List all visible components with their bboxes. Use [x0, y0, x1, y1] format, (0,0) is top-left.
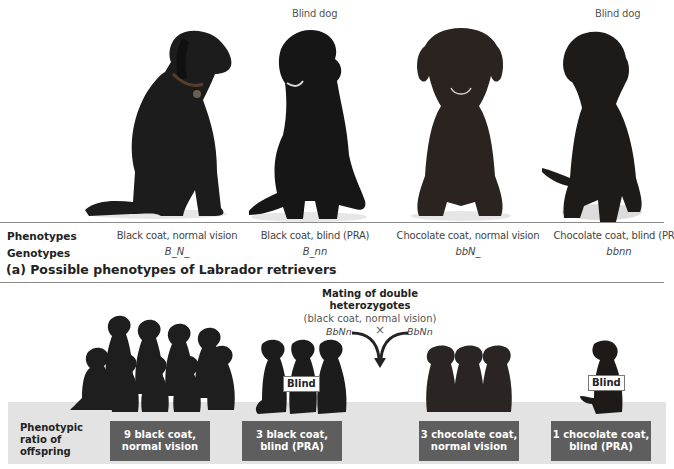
ratio-box-3-line1: 3 chocolate coat,: [421, 429, 518, 441]
blind-tag-black: Blind: [283, 376, 320, 392]
ratio-box-chocolate-normal: 3 chocolate coat, normal vision: [419, 421, 519, 461]
section-divider: [0, 282, 664, 283]
parent-right-genotype: BbNn: [407, 326, 433, 337]
phenotype-4: Chocolate coat, blind (PRA): [534, 230, 674, 241]
mating-title-line1: Mating of double: [290, 288, 450, 300]
ratio-box-2-line1: 3 black coat,: [256, 429, 328, 441]
genotype-4: bbnn: [534, 246, 674, 257]
phenotypic-ratio-label: Phenotypic ratio of offspring: [20, 422, 83, 458]
genotype-2: B_nn: [230, 246, 400, 257]
black-coat-blind-dog-image: [243, 25, 373, 223]
mating-title-line2: heterozygotes: [290, 300, 450, 312]
ratio-box-chocolate-blind: 1 chocolate coat, blind (PRA): [551, 421, 651, 461]
mating-arrow-icon: [350, 328, 410, 370]
parent-left-genotype: BbNn: [326, 326, 352, 337]
top-baseline-divider: [0, 222, 664, 223]
mating-subtitle: (black coat, normal vision): [280, 313, 460, 324]
chocolate-coat-blind-dog-image: [540, 28, 660, 226]
phenotypes-row-label: Phenotypes: [7, 230, 77, 242]
section-title-a: (a) Possible phenotypes of Labrador retr…: [6, 262, 337, 277]
ratio-box-black-blind: 3 black coat, blind (PRA): [242, 421, 342, 461]
ratio-box-4-line2: blind (PRA): [553, 441, 650, 453]
ratio-box-2-line2: blind (PRA): [256, 441, 328, 453]
genotypes-row-label: Genotypes: [7, 247, 70, 259]
ratio-box-3-line2: normal vision: [421, 441, 518, 453]
ratio-box-black-normal: 9 black coat, normal vision: [110, 421, 210, 461]
blind-dog-caption-2: Blind dog: [595, 8, 640, 19]
chocolate-coat-normal-vision-dog-image: [405, 26, 515, 222]
mating-title: Mating of double heterozygotes: [290, 288, 450, 312]
blind-dog-caption-1: Blind dog: [292, 8, 337, 19]
black-coat-normal-vision-dog-image: [75, 22, 235, 220]
ratio-label-line3: offspring: [20, 446, 83, 458]
ratio-label-line2: ratio of: [20, 434, 83, 446]
genotype-3: bbN_: [383, 246, 553, 257]
nine-black-normal-dogs-image: [66, 312, 246, 414]
ratio-box-4-line1: 1 chocolate coat,: [553, 429, 650, 441]
ratio-box-1-line1: 9 black coat,: [122, 429, 198, 441]
phenotype-3: Chocolate coat, normal vision: [383, 230, 553, 241]
ratio-box-1-line2: normal vision: [122, 441, 198, 453]
ratio-label-line1: Phenotypic: [20, 422, 83, 434]
phenotype-2: Black coat, blind (PRA): [230, 230, 400, 241]
three-chocolate-normal-dogs-image: [425, 344, 517, 414]
blind-tag-chocolate: Blind: [588, 375, 625, 391]
